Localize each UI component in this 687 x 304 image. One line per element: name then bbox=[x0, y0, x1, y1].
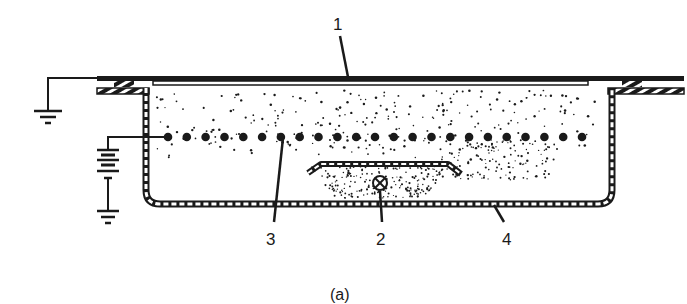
bead bbox=[540, 133, 549, 142]
bead bbox=[427, 133, 436, 142]
heater-source-icon bbox=[373, 176, 387, 190]
bead bbox=[559, 133, 568, 142]
bead bbox=[484, 133, 493, 142]
bead bbox=[446, 133, 455, 142]
bead bbox=[352, 133, 361, 142]
bead bbox=[521, 133, 530, 142]
label-container: 4 bbox=[502, 230, 511, 249]
label-top-plate: 1 bbox=[333, 15, 342, 34]
bead bbox=[314, 133, 323, 142]
bead bbox=[371, 133, 380, 142]
diagram-figure: 1 3 2 4 (a) bbox=[0, 0, 687, 304]
bead bbox=[465, 133, 474, 142]
ground-symbol-top bbox=[34, 78, 97, 123]
label-wire-electrode: 3 bbox=[266, 230, 275, 249]
bead bbox=[201, 133, 210, 142]
left-seal bbox=[114, 81, 134, 87]
bead bbox=[408, 133, 417, 142]
bead bbox=[258, 133, 267, 142]
right-seal bbox=[622, 81, 642, 87]
bead bbox=[183, 133, 192, 142]
ground-symbol-battery bbox=[97, 211, 119, 223]
bead bbox=[578, 133, 587, 142]
bead bbox=[164, 133, 173, 142]
bead bbox=[390, 133, 399, 142]
container bbox=[97, 88, 684, 204]
figure-caption: (a) bbox=[330, 286, 350, 303]
label-heater: 2 bbox=[376, 230, 385, 249]
wire-electrode-row bbox=[164, 133, 587, 142]
bead bbox=[333, 133, 342, 142]
bead bbox=[220, 133, 229, 142]
top-plate bbox=[97, 76, 684, 87]
bead bbox=[295, 133, 304, 142]
bead bbox=[502, 133, 511, 142]
bead bbox=[239, 133, 248, 142]
